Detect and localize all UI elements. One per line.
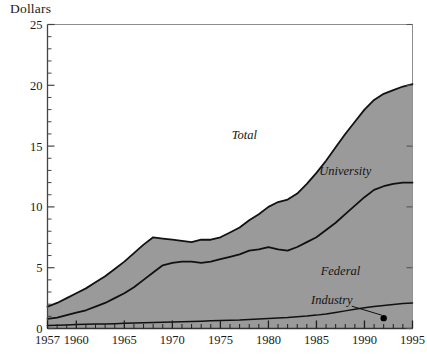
y-tick-label: 20 [30, 79, 43, 93]
y-tick-label: 15 [30, 140, 43, 154]
area-chart: 0510152025 19571960196519701975198019851… [0, 0, 427, 354]
x-tick-label: 1957 [35, 333, 60, 347]
area-total [48, 84, 413, 328]
x-tick-label: 1985 [304, 333, 329, 347]
callout-point [380, 315, 386, 321]
series-label-federal: Federal [320, 264, 361, 278]
series-label-total: Total [232, 128, 258, 142]
x-tick-label: 1995 [400, 333, 425, 347]
x-axis-tick-labels: 195719601965197019751980198519901995 [35, 333, 425, 347]
series-label-industry: Industry [310, 293, 353, 307]
y-tick-label: 5 [36, 261, 42, 275]
stacked-areas [48, 84, 413, 328]
series-label-university: University [319, 164, 372, 178]
x-tick-label: 1990 [352, 333, 377, 347]
x-tick-label: 1980 [256, 333, 281, 347]
x-tick-label: 1960 [64, 333, 89, 347]
x-tick-label: 1970 [160, 333, 185, 347]
y-axis-tick-labels: 0510152025 [30, 18, 43, 336]
x-tick-label: 1965 [112, 333, 137, 347]
x-tick-label: 1975 [208, 333, 233, 347]
chart-figure: Dollars 0510152025 195719601965197019751… [0, 0, 427, 354]
y-tick-label: 10 [30, 200, 43, 214]
y-tick-label: 25 [30, 18, 43, 32]
